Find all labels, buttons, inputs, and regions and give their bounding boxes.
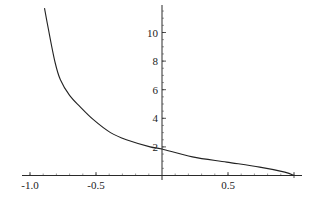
y-tick-label-6: 6 (153, 84, 159, 96)
y-tick-label-8: 8 (153, 55, 159, 67)
x-tick-label-05: 0.5 (221, 179, 235, 191)
function-plot: -1.0 -0.5 0.5 2 4 6 8 10 (0, 0, 314, 200)
x-tick-label-neg05: -0.5 (87, 179, 105, 191)
y-tick-label-10: 10 (147, 27, 159, 39)
x-tick-label-neg1: -1.0 (21, 179, 39, 191)
y-tick-label-4: 4 (153, 112, 159, 124)
y-tick-label-2: 2 (153, 141, 159, 153)
function-curve (45, 8, 295, 175)
